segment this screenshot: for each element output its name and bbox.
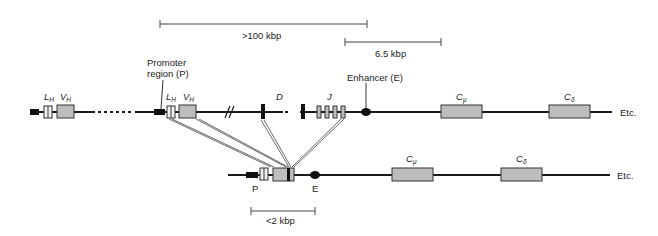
j-label: J	[327, 91, 332, 102]
j-segment-2	[325, 106, 329, 118]
d-segment-1	[261, 104, 265, 119]
c-delta-label-germline: Cδ	[564, 91, 575, 105]
j-segment-3	[333, 106, 337, 118]
promoter-label-line2: region (P)	[147, 68, 189, 79]
vh-label-1: VH	[60, 91, 71, 105]
promoter-pointer	[161, 80, 163, 109]
rearrangement-connectors	[169, 119, 344, 167]
c-mu-label-germline: Cμ	[456, 91, 466, 105]
v-segment-1	[57, 105, 74, 118]
scale-bar-6-5kbp	[345, 38, 441, 46]
promoter-label-line1: Promoter	[147, 57, 186, 68]
c-mu-segment-rearranged	[392, 168, 433, 181]
scale-label-6-5kbp: 6.5 kbp	[375, 48, 406, 59]
promoter-element	[154, 109, 165, 115]
rearranged-vdj	[273, 168, 294, 181]
c-delta-label-rearranged: Cδ	[516, 153, 527, 167]
lh-label-1: LH	[44, 91, 54, 105]
d-segment-2	[301, 104, 305, 119]
etc-label-rearranged: Etc.	[617, 170, 633, 181]
d-label: D	[276, 91, 283, 102]
c-delta-segment-germline	[549, 105, 590, 118]
rearranged-promoter	[246, 172, 258, 178]
c-mu-segment-germline	[441, 105, 482, 118]
d-dotted-gap	[273, 111, 288, 113]
diagram-graphics	[0, 0, 658, 236]
scale-bar-100kbp	[160, 20, 367, 28]
v-segment-2	[179, 105, 196, 118]
p-label: P	[252, 183, 258, 194]
vh-label-2: VH	[183, 91, 194, 105]
rearranged-dj-mark	[287, 168, 290, 181]
enhancer-element	[361, 108, 371, 116]
upstream-black-element	[30, 109, 39, 115]
etc-label-germline: Etc.	[620, 107, 636, 118]
c-delta-segment-rearranged	[501, 168, 542, 181]
j-segment-1	[317, 106, 321, 118]
scale-label-2kbp: <2 kbp	[266, 215, 295, 226]
scale-label-100kbp: >100 kbp	[242, 30, 281, 41]
rearranged-enhancer	[310, 171, 320, 179]
j-segment-4	[341, 106, 345, 118]
scale-bar-2kbp	[251, 207, 315, 215]
lh-label-2: LH	[166, 91, 176, 105]
gene-rearrangement-diagram: >100 kbp 6.5 kbp <2 kbp Promoter region …	[0, 0, 658, 236]
germline-dotted-gap	[98, 111, 131, 113]
e-label: E	[312, 183, 318, 194]
enhancer-label: Enhancer (E)	[347, 72, 403, 83]
c-mu-label-rearranged: Cμ	[406, 153, 416, 167]
